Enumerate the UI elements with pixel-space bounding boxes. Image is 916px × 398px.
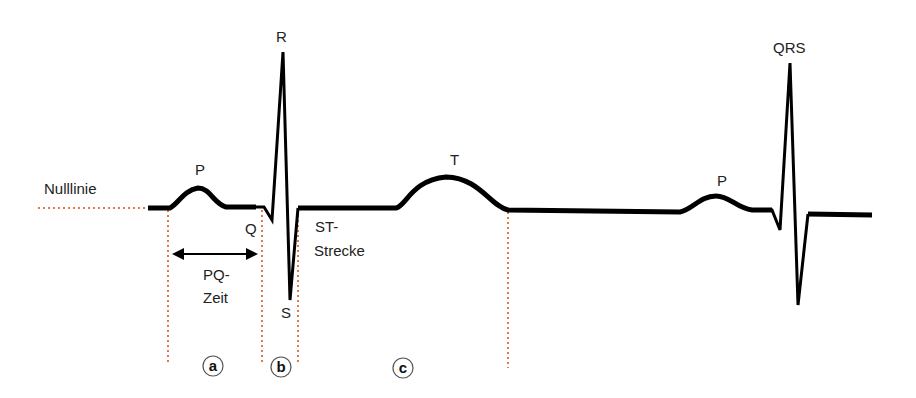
label-qrs: QRS <box>773 39 806 56</box>
interval-marker-b-label: b <box>276 358 285 375</box>
pq-arrow-right-head <box>246 248 258 260</box>
interval-marker-a-label: a <box>209 357 218 374</box>
label-pq-line2: Zeit <box>203 289 229 306</box>
ecg-diagram: Nulllinie P R Q S PQ- Zeit ST- Strecke T… <box>0 0 916 398</box>
label-s-point: S <box>281 304 291 321</box>
interval-marker-a: a <box>203 356 223 376</box>
ecg-trace-tail <box>808 214 872 215</box>
label-nulllinie: Nulllinie <box>44 180 97 197</box>
label-q-point: Q <box>245 220 257 237</box>
label-r-peak: R <box>276 28 287 45</box>
interval-marker-c-label: c <box>399 359 407 376</box>
label-st-line2: Strecke <box>314 242 365 259</box>
ecg-trace-qrs-1 <box>256 52 298 300</box>
interval-marker-c: c <box>393 358 413 378</box>
label-t-wave: T <box>450 151 459 168</box>
pq-arrow-left-head <box>172 248 184 260</box>
label-p-wave-1: P <box>195 161 205 178</box>
ecg-trace-st-t <box>298 177 772 212</box>
interval-marker-b: b <box>271 357 291 377</box>
ecg-trace-baseline-p <box>148 188 256 208</box>
ecg-trace-qrs-2 <box>770 63 808 305</box>
label-pq-line1: PQ- <box>203 266 230 283</box>
label-p-wave-2: P <box>717 172 727 189</box>
label-st-line1: ST- <box>315 218 338 235</box>
